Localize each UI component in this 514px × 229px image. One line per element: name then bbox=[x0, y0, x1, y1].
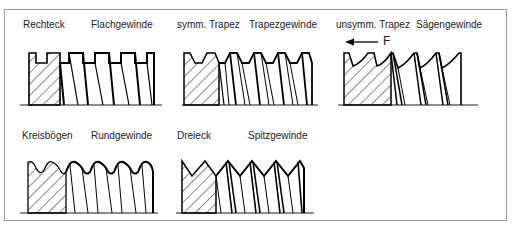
flachgewinde-thread bbox=[20, 53, 162, 105]
spitzgewinde-thread bbox=[176, 161, 314, 213]
thread-diagrams bbox=[0, 0, 514, 229]
trapezgewinde-thread bbox=[182, 53, 318, 105]
rundgewinde-thread bbox=[20, 162, 158, 213]
saegengewinde-thread bbox=[338, 39, 478, 106]
